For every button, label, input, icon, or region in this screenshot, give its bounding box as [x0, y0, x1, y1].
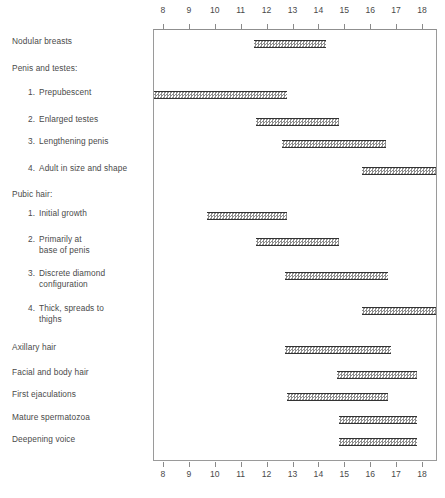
- x-axis-tick-label-bottom-18: 18: [412, 469, 432, 479]
- x-axis-tick-label-top-10: 10: [205, 5, 225, 15]
- x-axis-tick-label-top-12: 12: [257, 5, 277, 15]
- range-bar: [337, 371, 417, 379]
- row-label: 3.Discrete diamondconfiguration: [28, 268, 105, 289]
- x-axis-tick-label-bottom-8: 8: [153, 469, 173, 479]
- row-label-text: Lengthening penis: [39, 136, 109, 147]
- x-axis-tick-label-top-15: 15: [334, 5, 354, 15]
- row-label-text: Nodular breasts: [12, 36, 72, 47]
- x-axis-tick-label-top-8: 8: [153, 5, 173, 15]
- row-label-text: Axillary hair: [12, 342, 56, 353]
- row-label: 1.Prepubescent: [28, 87, 91, 98]
- x-axis-tick-bottom-13: [293, 462, 294, 467]
- row-label: 4.Thick, spreads tothighs: [28, 303, 104, 324]
- range-bar: [154, 91, 287, 99]
- row-label-number: 2.: [28, 114, 39, 125]
- x-axis-tick-bottom-14: [318, 462, 319, 467]
- puberty-timeline-chart: 89101112131415161718 Nodular breastsPeni…: [0, 0, 445, 498]
- x-axis-tick-label-bottom-12: 12: [257, 469, 277, 479]
- x-axis-top: 89101112131415161718: [153, 5, 437, 29]
- row-label-column: Nodular breastsPenis and testes:1.Prepub…: [0, 0, 152, 498]
- x-axis-tick-bottom-15: [344, 462, 345, 467]
- row-label: 1.Initial growth: [28, 208, 87, 219]
- row-label-text: Prepubescent: [39, 87, 91, 98]
- row-label-text: Thick, spreads tothighs: [39, 303, 104, 324]
- range-bar: [339, 416, 417, 424]
- x-axis-tick-bottom-16: [370, 462, 371, 467]
- row-label-number: 4.: [28, 303, 39, 314]
- row-label-text: Mature spermatozoa: [12, 412, 90, 423]
- x-axis-tick-label-bottom-15: 15: [334, 469, 354, 479]
- row-label-text: Penis and testes:: [12, 63, 77, 74]
- row-label-text: First ejaculations: [12, 389, 76, 400]
- range-bar: [207, 212, 287, 220]
- x-axis-bottom: 89101112131415161718: [153, 462, 437, 486]
- range-bar: [362, 167, 436, 175]
- range-bar: [339, 438, 417, 446]
- x-axis-tick-label-bottom-10: 10: [205, 469, 225, 479]
- x-axis-tick-label-top-13: 13: [283, 5, 303, 15]
- range-bar: [287, 393, 388, 401]
- row-label-text: Facial and body hair: [12, 367, 89, 378]
- row-label: Nodular breasts: [12, 36, 72, 47]
- row-label-text: Primarily atbase of penis: [39, 234, 90, 255]
- x-axis-tick-bottom-9: [189, 462, 190, 467]
- range-bar: [256, 118, 339, 126]
- x-axis-tick-bottom-11: [241, 462, 242, 467]
- row-label: Pubic hair:: [12, 189, 52, 200]
- x-axis-tick-label-top-16: 16: [360, 5, 380, 15]
- row-label: Mature spermatozoa: [12, 412, 90, 423]
- x-axis-tick-label-top-17: 17: [386, 5, 406, 15]
- x-axis-tick-label-bottom-16: 16: [360, 469, 380, 479]
- row-label-text: Initial growth: [39, 208, 87, 219]
- range-bar: [282, 140, 386, 148]
- x-axis-tick-bottom-18: [422, 462, 423, 467]
- x-axis-tick-label-bottom-11: 11: [231, 469, 251, 479]
- x-axis-tick-label-bottom-13: 13: [283, 469, 303, 479]
- x-axis-tick-bottom-12: [267, 462, 268, 467]
- row-label-number: 3.: [28, 136, 39, 147]
- range-bar: [285, 346, 391, 354]
- range-bar: [256, 238, 339, 246]
- row-label: 4.Adult in size and shape: [28, 163, 127, 174]
- row-label-text: Adult in size and shape: [39, 163, 127, 174]
- row-label-number: 4.: [28, 163, 39, 174]
- row-label: Facial and body hair: [12, 367, 89, 378]
- row-label: Axillary hair: [12, 342, 56, 353]
- row-label: First ejaculations: [12, 389, 76, 400]
- row-label-text: Discrete diamondconfiguration: [39, 268, 105, 289]
- row-label-number: 2.: [28, 234, 39, 245]
- range-bar: [362, 307, 436, 315]
- x-axis-tick-label-bottom-14: 14: [308, 469, 328, 479]
- row-label-number: 1.: [28, 208, 39, 219]
- range-bar: [254, 40, 327, 48]
- row-label: 2.Enlarged testes: [28, 114, 98, 125]
- x-axis-tick-bottom-17: [396, 462, 397, 467]
- x-axis-tick-bottom-8: [163, 462, 164, 467]
- row-label-text: Enlarged testes: [39, 114, 98, 125]
- row-label: Deepening voice: [12, 434, 75, 445]
- x-axis-tick-label-bottom-9: 9: [179, 469, 199, 479]
- row-label-text: Pubic hair:: [12, 189, 52, 200]
- row-label: 2.Primarily atbase of penis: [28, 234, 90, 255]
- x-axis-tick-label-top-18: 18: [412, 5, 432, 15]
- x-axis-tick-label-top-14: 14: [308, 5, 328, 15]
- x-axis-tick-label-bottom-17: 17: [386, 469, 406, 479]
- row-label-number: 1.: [28, 87, 39, 98]
- x-axis-tick-label-top-9: 9: [179, 5, 199, 15]
- range-bar: [285, 272, 389, 280]
- x-axis-tick-bottom-10: [215, 462, 216, 467]
- row-label-text: Deepening voice: [12, 434, 75, 445]
- row-label: 3.Lengthening penis: [28, 136, 109, 147]
- x-axis-tick-label-top-11: 11: [231, 5, 251, 15]
- row-label: Penis and testes:: [12, 63, 77, 74]
- row-label-number: 3.: [28, 268, 39, 279]
